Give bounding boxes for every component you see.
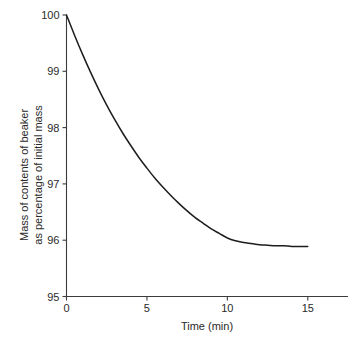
y-tick-group <box>63 15 67 297</box>
y-axis: 9596979899100 <box>41 9 66 303</box>
x-tick-label: 15 <box>302 302 314 314</box>
y-tick-label: 95 <box>47 291 59 303</box>
y-tick-label: 96 <box>47 234 59 246</box>
x-tick-label: 10 <box>221 302 233 314</box>
x-tick-group <box>67 297 308 301</box>
x-axis: 051015 <box>63 297 348 314</box>
x-tick-label-group: 051015 <box>63 302 313 314</box>
y-axis-title-line2: as percentage of initial mass <box>32 105 44 245</box>
y-tick-label: 97 <box>47 178 59 190</box>
y-tick-label: 100 <box>41 9 59 21</box>
y-tick-label: 98 <box>47 122 59 134</box>
y-tick-label: 99 <box>47 65 59 77</box>
x-axis-title: Time (min) <box>181 320 233 332</box>
line-chart: 9596979899100 051015 Time (min) Mass of … <box>0 0 362 339</box>
x-tick-label: 0 <box>63 302 69 314</box>
data-series-line <box>67 15 308 246</box>
y-axis-title-line1: Mass of contents of beaker <box>18 109 30 241</box>
x-tick-label: 5 <box>144 302 150 314</box>
chart-container: 9596979899100 051015 Time (min) Mass of … <box>0 0 362 339</box>
